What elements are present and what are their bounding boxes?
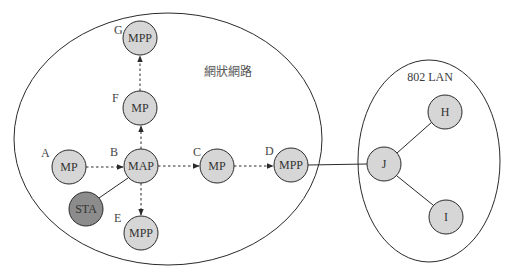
svg-text:H: H [441,105,450,119]
svg-text:I: I [444,210,448,224]
edge-j-i [397,176,433,205]
mesh-network-diagram: 網狀網路 802 LAN G F A B C D E MPP MP MP MAP [0,0,512,279]
svg-text:MP: MP [131,101,149,115]
label-d: D [265,144,274,158]
edge-j-h [397,122,432,153]
svg-text:J: J [382,157,387,171]
node-g: MPP [123,21,157,55]
svg-text:STA: STA [75,202,97,216]
node-f: MP [123,91,157,125]
svg-text:MP: MP [208,159,226,173]
mesh-network-title: 網狀網路 [204,64,252,79]
node-sta: STA [69,192,103,226]
label-c: C [193,145,201,159]
label-f: F [112,91,119,105]
node-j: J [367,147,401,181]
node-d: MPP [274,148,308,182]
svg-text:MPP: MPP [129,226,153,240]
svg-text:MP: MP [60,160,78,174]
label-b: B [110,145,118,159]
node-a: MP [52,150,86,184]
lan-title: 802 LAN [407,70,453,84]
label-e: E [114,211,121,225]
node-c: MP [200,149,234,183]
svg-text:MPP: MPP [128,31,152,45]
mesh-network-region [14,13,322,265]
node-b: MAP [124,149,158,183]
node-h: H [428,95,462,129]
node-i: I [429,200,463,234]
svg-text:MPP: MPP [279,158,303,172]
label-a: A [41,146,50,160]
label-g: G [114,23,123,37]
svg-text:MAP: MAP [128,159,154,173]
edge-b-sta [99,178,128,198]
node-e: MPP [124,216,158,250]
